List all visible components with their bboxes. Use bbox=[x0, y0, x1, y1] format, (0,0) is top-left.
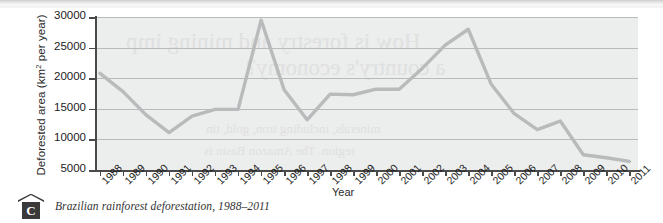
series-line-deforested-area bbox=[96, 17, 638, 170]
y-tick-15000 bbox=[89, 109, 95, 111]
y-axis-tick-labels: 50001000015000200002500030000 bbox=[22, 0, 86, 223]
deforestation-line-chart: Deforested area (km2 per year) How is fo… bbox=[0, 0, 663, 223]
page-root: Deforested area (km2 per year) How is fo… bbox=[0, 0, 663, 223]
plot-area: How is forestry and mining imp a country… bbox=[96, 17, 638, 170]
y-tick-30000 bbox=[89, 17, 95, 19]
y-tick-25000 bbox=[89, 48, 95, 50]
series-polyline-0 bbox=[100, 20, 629, 161]
y-tick-10000 bbox=[89, 139, 95, 141]
y-tick-label-15000: 15000 bbox=[26, 101, 86, 113]
figure-caption-text: Brazilian rainforest deforestation, 1988… bbox=[55, 200, 270, 212]
y-axis-line bbox=[95, 16, 97, 171]
figure-caption-row: C Brazilian rainforest deforestation, 19… bbox=[8, 194, 658, 221]
y-tick-label-25000: 25000 bbox=[26, 40, 86, 52]
y-tick-label-5000: 5000 bbox=[26, 162, 86, 174]
y-tick-20000 bbox=[89, 78, 95, 80]
y-tick-label-10000: 10000 bbox=[26, 131, 86, 143]
y-tick-label-20000: 20000 bbox=[26, 70, 86, 82]
figure-marker-icon: C bbox=[16, 194, 46, 220]
y-tick-label-30000: 30000 bbox=[26, 9, 86, 21]
figure-marker-letter: C bbox=[22, 202, 40, 219]
y-tick-5000 bbox=[89, 170, 95, 172]
